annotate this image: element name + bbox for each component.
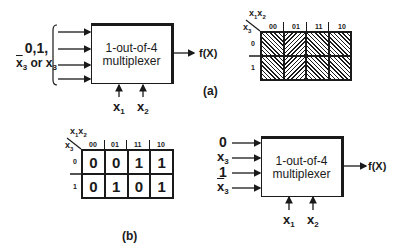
- kmap-b-col-00: 00: [89, 141, 97, 148]
- kmap-b-grid: 0 0 1 1 0 1 0 1: [81, 149, 174, 199]
- panel-a-input-label: 0,1, x3 or x3: [16, 41, 57, 75]
- panel-b-input-1: 1: [219, 164, 227, 180]
- kmap-a-col-00: 00: [269, 23, 277, 30]
- kmap-a-row-0: 0: [251, 40, 255, 47]
- kmap-a-col-11: 11: [315, 23, 322, 30]
- kmap-b-cell-1-11: 0: [128, 174, 151, 198]
- panel-b-output-label: f(X): [368, 160, 386, 172]
- kmap-a-col-10: 10: [338, 23, 346, 30]
- kmap-b-cell-1-00: 0: [82, 174, 105, 198]
- kmap-a-cell-0-00: [261, 32, 284, 56]
- mux-label-line2: multiplexer: [92, 55, 171, 68]
- kmap-b-row-1: 1: [73, 183, 77, 190]
- kmap-a-cell-1-11: [306, 56, 329, 80]
- input-label-line1: 0,1,: [16, 41, 57, 56]
- panel-a-output-label: f(X): [199, 47, 217, 59]
- kmap-a-cell-0-10: [329, 32, 352, 56]
- kmap-a-row-1: 1: [251, 64, 255, 71]
- kmap-b-cell-0-11: 1: [128, 150, 151, 174]
- kmap-a-col-var: x1x2: [249, 8, 266, 20]
- panel-a-multiplexer-block: 1-out-of-4 multiplexer: [91, 23, 174, 84]
- kmap-b-col-var: x1x2: [70, 126, 87, 138]
- kmap-a-cell-0-01: [284, 32, 307, 56]
- kmap-b-cell-0-00: 0: [82, 150, 105, 174]
- kmap-a-cell-0-11: [306, 32, 329, 56]
- kmap-a-row-var: x3: [243, 22, 251, 34]
- input-label-line2: x3 or x3: [16, 56, 57, 75]
- kmap-b-cell-1-10: 1: [150, 174, 173, 198]
- panel-b-multiplexer-block: 1-out-of-4 multiplexer: [261, 136, 344, 197]
- kmap-b-row-var: x3: [65, 140, 73, 152]
- panel-a-select-x2: x2: [137, 99, 149, 116]
- panel-b-select-x1: x1: [283, 212, 295, 229]
- kmap-b-col-11: 11: [134, 141, 141, 148]
- kmap-a-cell-1-00: [261, 56, 284, 80]
- kmap-b-cell-1-01: 1: [105, 174, 128, 198]
- kmap-b-row-0: 0: [73, 158, 77, 165]
- kmap-b-cell-0-01: 0: [105, 150, 128, 174]
- kmap-b-col-10: 10: [157, 141, 165, 148]
- panel-a-select-x1: x1: [113, 99, 125, 116]
- panel-b-caption: (b): [122, 229, 137, 243]
- kmap-b-col-01: 01: [111, 141, 119, 148]
- kmap-a-grid: [260, 31, 352, 81]
- kmap-a-cell-1-10: [329, 56, 352, 80]
- mux-label-line2: multiplexer: [262, 168, 341, 181]
- kmap-a-cell-1-01: [284, 56, 307, 80]
- kmap-a-col-01: 01: [292, 23, 300, 30]
- kmap-b-cell-0-10: 1: [150, 150, 173, 174]
- panel-b-input-0: 0: [219, 134, 227, 150]
- panel-b-input-x3-bar: x3: [217, 179, 229, 196]
- panel-b-select-x2: x2: [307, 212, 319, 229]
- panel-a-caption: (a): [203, 84, 218, 98]
